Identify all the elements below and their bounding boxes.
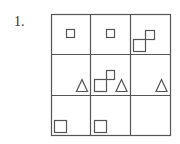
small-square-icon xyxy=(146,31,155,40)
large-square-icon xyxy=(95,121,107,133)
small-square-icon xyxy=(107,71,115,80)
large-square-icon xyxy=(134,40,146,52)
small-square-icon xyxy=(67,30,75,38)
grid-border xyxy=(52,15,171,136)
large-square-icon xyxy=(55,121,67,133)
triangle-icon xyxy=(116,80,127,92)
triangle-icon xyxy=(156,80,167,92)
puzzle-grid xyxy=(0,0,180,144)
large-square-icon xyxy=(95,80,107,92)
small-square-icon xyxy=(107,30,115,38)
triangle-icon xyxy=(77,80,88,92)
